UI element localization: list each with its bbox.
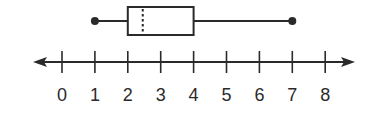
tick-label: 4 [189, 85, 199, 105]
tick-label: 2 [123, 85, 133, 105]
box-plot [91, 7, 296, 35]
min-point [91, 17, 99, 25]
tick-label: 6 [254, 85, 264, 105]
tick-label: 0 [57, 85, 67, 105]
box-plot-chart: 012345678 [0, 0, 381, 113]
tick-label: 8 [320, 85, 330, 105]
iqr-box [128, 7, 194, 35]
max-point [288, 17, 296, 25]
tick-label: 1 [90, 85, 100, 105]
tick-label: 5 [221, 85, 231, 105]
tick-label: 3 [156, 85, 166, 105]
number-line: 012345678 [33, 51, 355, 105]
tick-label: 7 [287, 85, 297, 105]
